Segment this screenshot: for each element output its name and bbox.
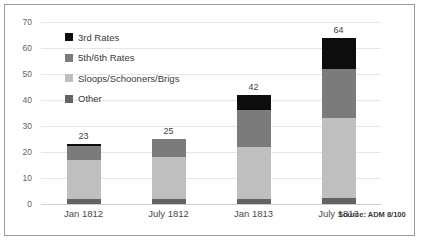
bar-segment[interactable]	[322, 38, 356, 69]
bar-segment[interactable]	[67, 146, 101, 160]
x-tick-label: Jan 1812	[41, 208, 127, 219]
bar-value-label: 23	[54, 132, 114, 141]
bar-segment[interactable]	[322, 69, 356, 118]
bar-segment[interactable]	[152, 157, 186, 199]
source-note: Source: ADM 8/100	[338, 210, 406, 219]
axis-baseline	[41, 204, 381, 205]
bar-segment[interactable]	[237, 147, 271, 199]
chart-frame: 010203040506070 3rd Rates5th/6th RatesSl…	[4, 4, 415, 236]
y-tick-label: 30	[6, 122, 32, 130]
bar-segment[interactable]	[67, 144, 101, 145]
bar-segment[interactable]	[67, 160, 101, 199]
y-tick-label: 0	[6, 200, 32, 208]
bar-column[interactable]	[67, 144, 101, 204]
y-tick-label: 10	[6, 174, 32, 182]
y-tick-label: 50	[6, 70, 32, 78]
bar-value-label: 64	[309, 26, 369, 35]
x-tick-label: July 1812	[126, 208, 212, 219]
bar-segment[interactable]	[237, 95, 271, 111]
bar-segment[interactable]	[237, 110, 271, 146]
bar-segment[interactable]	[152, 139, 186, 157]
y-tick-label: 20	[6, 148, 32, 156]
bar-segment[interactable]	[322, 118, 356, 197]
bar-column[interactable]	[237, 95, 271, 204]
y-tick-label: 40	[6, 96, 32, 104]
bar-value-label: 25	[139, 127, 199, 136]
x-tick-label: Jan 1813	[211, 208, 297, 219]
y-tick-label: 60	[6, 44, 32, 52]
bar-value-label: 42	[224, 83, 284, 92]
bar-column[interactable]	[322, 38, 356, 204]
plot-area	[41, 18, 381, 204]
bar-column[interactable]	[152, 139, 186, 204]
y-tick-label: 70	[6, 18, 32, 26]
